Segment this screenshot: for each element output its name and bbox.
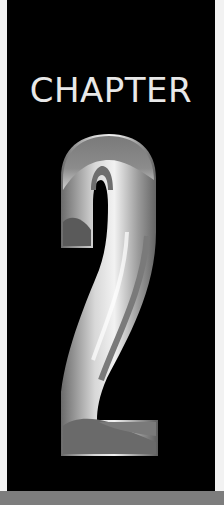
chapter-number-graphic: 2 (7, 0, 215, 491)
bottom-bar (0, 491, 224, 505)
chapter-panel: CHAPTER 2 (7, 0, 215, 491)
